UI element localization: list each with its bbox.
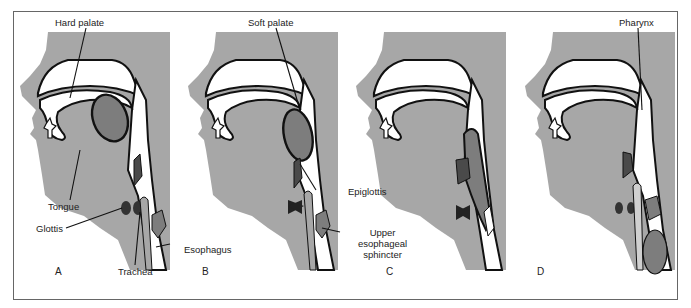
panel-letter-d: D bbox=[537, 266, 544, 277]
swallowing-diagram bbox=[0, 0, 691, 308]
label-epiglottis: Epiglottis bbox=[348, 186, 387, 197]
label-tongue: Tongue bbox=[48, 201, 79, 212]
label-ues-line3: sphincter bbox=[358, 249, 407, 260]
label-glottis: Glottis bbox=[36, 223, 63, 234]
panel-letter-c: C bbox=[386, 266, 393, 277]
label-ues-line2: esophageal bbox=[358, 238, 407, 249]
label-trachea: Trachea bbox=[118, 266, 153, 277]
panel-letter-b: B bbox=[202, 266, 209, 277]
label-soft-palate: Soft palate bbox=[248, 17, 293, 28]
label-esophagus: Esophagus bbox=[184, 244, 232, 255]
panel-a bbox=[20, 32, 170, 270]
label-upper-esophageal-sphincter: Upper esophageal sphincter bbox=[358, 227, 407, 260]
panel-letter-a: A bbox=[55, 266, 62, 277]
label-ues-line1: Upper bbox=[358, 227, 407, 238]
label-hard-palate: Hard palate bbox=[55, 17, 104, 28]
label-pharynx: Pharynx bbox=[619, 17, 654, 28]
panel-d bbox=[525, 32, 675, 274]
panel-b bbox=[188, 32, 338, 270]
